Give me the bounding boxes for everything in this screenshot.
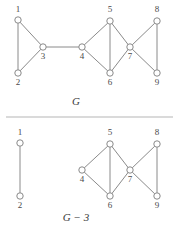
node-group: 12456789 [17,127,160,210]
graph-edge [130,144,157,170]
graph-edge [110,144,130,170]
graph-vertex [107,70,113,76]
vertex-label: 3 [41,51,46,61]
edge-group [18,20,157,73]
vertex-label: 2 [18,200,23,210]
graph-vertex [15,70,21,76]
vertex-label: 8 [155,127,160,137]
graph-edge [18,47,43,73]
graph-vertex [127,167,133,173]
graph-vertex [154,193,160,199]
vertex-label: 9 [155,77,160,87]
graph-vertex [127,44,133,50]
vertex-label: 5 [108,127,113,137]
graph-edge [82,21,110,47]
graph-edge [130,170,157,196]
vertex-label: 1 [18,127,23,137]
graph-vertex [15,17,21,23]
vertex-label: 7 [128,174,133,184]
vertex-label: 5 [108,4,113,14]
graph-G-minus-3: 12456789 [17,127,160,210]
graph-vertex [154,70,160,76]
graph-edge [130,21,157,47]
vertex-label: 6 [108,77,113,87]
graph-vertex [79,167,85,173]
graph-vertex [17,140,23,146]
graph-caption-G: G [72,95,80,107]
graph-vertex [154,141,160,147]
graph-vertex [107,18,113,24]
graph-vertex [154,18,160,24]
graph-edge [82,144,110,170]
graph-edge [130,47,157,73]
graph-vertex [40,44,46,50]
graph-vertex [17,193,23,199]
graph-figure: 123456789 12456789 G G − 3 [0,0,179,231]
node-group: 123456789 [15,4,160,87]
graph-vertex [79,44,85,50]
graph-vertex [107,141,113,147]
vertex-label: 4 [80,51,85,61]
graph-caption-G-minus-3: G − 3 [63,211,90,223]
vertex-label: 8 [155,4,160,14]
vertex-label: 1 [16,4,21,14]
graph-edge [82,170,110,196]
graph-vertex [107,193,113,199]
vertex-label: 9 [155,200,160,210]
vertex-label: 4 [80,174,85,184]
graph-edge [82,47,110,73]
vertex-label: 7 [128,51,133,61]
figure-canvas: 123456789 12456789 G G − 3 [0,0,179,231]
edge-group [20,143,157,196]
graph-G: 123456789 [15,4,160,87]
graph-edge [18,20,43,47]
vertex-label: 6 [108,200,113,210]
vertex-label: 2 [16,77,21,87]
graph-edge [110,21,130,47]
